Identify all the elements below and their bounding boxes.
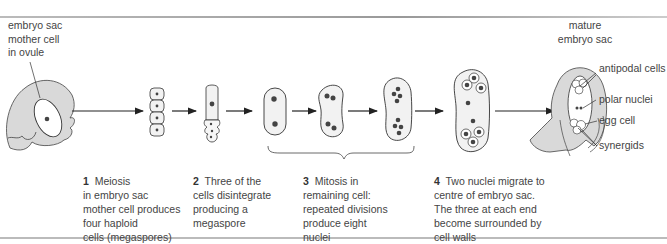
two-nucleate-stage (264, 88, 286, 135)
four-megaspores (150, 88, 164, 136)
caption-step-3: 3 Mitosis in remaining cell: repeated di… (303, 174, 388, 244)
label-synergids: synergids (599, 139, 644, 153)
megaspore-stage (204, 85, 220, 142)
mature-embryo-sac (530, 68, 607, 156)
ovule-mother-cell (6, 62, 74, 150)
caption-step-4: 4 Two nuclei migrate to centre of embryo… (434, 174, 545, 244)
four-nucleate-stage (319, 85, 343, 137)
label-antipodal-cells: antipodal cells (599, 62, 666, 76)
caption-step-1: 1 Meiosis in embryo sac mother cell prod… (83, 174, 180, 244)
caption-step-2: 2 Three of the cells disintegrate produc… (193, 174, 271, 230)
label-mature-embryo-sac: mature embryo sac (555, 19, 615, 46)
label-mother-cell: embryo sac mother cell in ovule (8, 19, 62, 60)
mitosis-brace (268, 146, 414, 159)
label-egg-cell: egg cell (599, 114, 635, 128)
label-polar-nuclei: polar nuclei (599, 93, 653, 107)
eight-nucleate-stage (384, 78, 412, 140)
walled-cells-stage (454, 70, 489, 152)
